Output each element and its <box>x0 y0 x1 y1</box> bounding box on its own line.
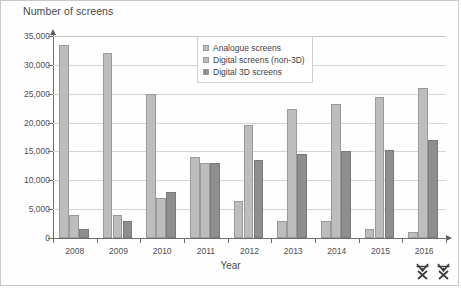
bar-2010-series-0 <box>146 94 156 238</box>
legend-item-1[interactable]: Digital screens (non-3D) <box>203 54 305 65</box>
y-tick-mark <box>48 123 53 124</box>
bar-2010-series-2 <box>166 192 176 238</box>
y-tick-label: 5,000 <box>29 204 50 214</box>
bar-2015-series-0 <box>365 229 375 238</box>
y-tick-mark <box>48 238 53 239</box>
legend-label: Digital 3D screens <box>213 67 282 77</box>
bar-group-2016 <box>408 36 438 238</box>
bar-2013-series-2 <box>297 154 307 238</box>
x-tick-mark <box>402 238 403 243</box>
bar-2009-series-0 <box>103 53 113 238</box>
bar-2016-series-2 <box>428 140 438 238</box>
y-axis-arrow-icon <box>50 29 56 35</box>
corner-marks <box>414 261 452 281</box>
legend-item-2[interactable]: Digital 3D screens <box>203 66 305 77</box>
x-tick-label-2012: 2012 <box>230 246 270 256</box>
x-tick-mark <box>315 238 316 243</box>
y-tick-label: 25,000 <box>24 89 50 99</box>
bar-2008-series-2 <box>79 229 89 238</box>
bar-group-2010 <box>146 36 176 238</box>
y-tick-mark <box>48 36 53 37</box>
y-tick-label: 35,000 <box>24 31 50 41</box>
x-axis-title: Year <box>1 260 460 271</box>
x-tick-label-2008: 2008 <box>55 246 95 256</box>
scissors-mark-2-icon <box>435 261 452 281</box>
bar-2016-series-1 <box>418 88 428 238</box>
x-tick-mark <box>446 238 447 243</box>
legend-swatch-icon <box>203 69 209 75</box>
chart-legend: Analogue screensDigital screens (non-3D)… <box>197 36 313 83</box>
chart-figure: Number of screens 05,00010,00015,00020,0… <box>0 0 459 286</box>
bar-2015-series-2 <box>385 150 395 238</box>
bar-2012-series-1 <box>244 125 254 238</box>
x-tick-label-2016: 2016 <box>404 246 444 256</box>
bar-group-2009 <box>103 36 133 238</box>
bar-2013-series-0 <box>277 221 287 238</box>
bar-2009-series-2 <box>123 221 133 238</box>
x-tick-mark <box>228 238 229 243</box>
legend-swatch-icon <box>203 57 209 63</box>
bar-2011-series-2 <box>210 163 220 238</box>
y-tick-label: 30,000 <box>24 60 50 70</box>
x-tick-label-2014: 2014 <box>317 246 357 256</box>
y-tick-mark <box>48 65 53 66</box>
y-tick-label: 10,000 <box>24 175 50 185</box>
y-tick-mark <box>48 94 53 95</box>
bar-2009-series-1 <box>113 215 123 238</box>
bar-2008-series-1 <box>69 215 79 238</box>
bar-2016-series-0 <box>408 232 418 238</box>
bar-2011-series-1 <box>200 163 210 238</box>
x-tick-label-2013: 2013 <box>273 246 313 256</box>
x-axis-line <box>53 238 449 239</box>
x-tick-label-2015: 2015 <box>361 246 401 256</box>
bar-group-2014 <box>321 36 351 238</box>
x-tick-mark <box>97 238 98 243</box>
x-tick-label-2009: 2009 <box>99 246 139 256</box>
y-tick-label: 15,000 <box>24 146 50 156</box>
y-tick-label: 20,000 <box>24 118 50 128</box>
y-tick-mark <box>48 209 53 210</box>
bar-2012-series-0 <box>234 201 244 239</box>
bar-2010-series-1 <box>156 198 166 238</box>
x-tick-mark <box>140 238 141 243</box>
scissors-mark-1-icon <box>414 261 431 281</box>
bar-group-2008 <box>59 36 89 238</box>
bar-2013-series-1 <box>287 109 297 238</box>
x-tick-mark <box>359 238 360 243</box>
bar-2014-series-2 <box>341 151 351 238</box>
bar-2014-series-0 <box>321 221 331 238</box>
bar-2014-series-1 <box>331 104 341 238</box>
y-tick-mark <box>48 180 53 181</box>
y-tick-mark <box>48 151 53 152</box>
bar-2008-series-0 <box>59 45 69 238</box>
legend-item-0[interactable]: Analogue screens <box>203 42 305 53</box>
x-tick-label-2010: 2010 <box>142 246 182 256</box>
bar-2011-series-0 <box>190 157 200 238</box>
x-tick-mark <box>53 238 54 243</box>
bar-group-2015 <box>365 36 395 238</box>
bar-2015-series-1 <box>375 97 385 238</box>
y-axis-tick-labels: 05,00010,00015,00020,00025,00030,00035,0… <box>1 1 50 288</box>
legend-label: Analogue screens <box>213 43 281 53</box>
x-tick-mark <box>271 238 272 243</box>
legend-label: Digital screens (non-3D) <box>213 55 305 65</box>
bar-2012-series-2 <box>254 160 264 238</box>
legend-swatch-icon <box>203 45 209 51</box>
x-tick-label-2011: 2011 <box>186 246 226 256</box>
x-tick-mark <box>184 238 185 243</box>
